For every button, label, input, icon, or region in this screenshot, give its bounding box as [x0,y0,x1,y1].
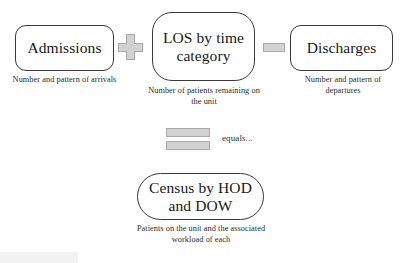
equals-operator-icon [166,128,210,150]
equals-top-bar [166,128,210,137]
plus-vertical-fill [127,35,134,59]
caption-discharges: Number and pattern of departures [288,75,398,97]
node-census-by-hod-and-dow: Census by HOD and DOW [137,173,264,220]
node-los-by-time-category: LOS by time category [152,12,255,81]
scan-artifact-strip [0,252,78,263]
equals-bottom-bar [166,141,210,150]
node-admissions-label: Admissions [16,39,113,57]
plus-operator-icon [118,34,143,60]
node-los-label: LOS by time category [153,29,254,65]
node-census-label: Census by HOD and DOW [138,179,263,215]
diagram-canvas: Admissions Number and pattern of arrival… [0,0,419,263]
caption-census: Patients on the unit and the associated … [120,224,282,246]
caption-los: Number of patients remaining on the unit [147,86,261,108]
node-discharges-label: Discharges [291,39,392,57]
minus-operator-icon [263,43,285,52]
equals-label: equals... [222,133,253,143]
node-discharges: Discharges [290,25,393,71]
caption-admissions: Number and pattern of arrivals [6,75,123,86]
node-admissions: Admissions [15,25,114,71]
